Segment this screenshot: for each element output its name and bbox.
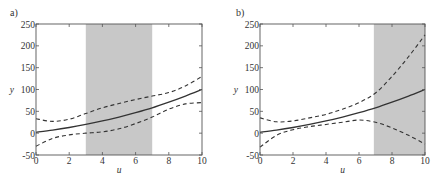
x-tick-label: 6 (357, 156, 362, 166)
y-tick-label: 250 (245, 20, 260, 30)
y-tick-label: 100 (245, 85, 260, 95)
y-axis-label: y (233, 85, 239, 95)
y-tick-label: 50 (250, 107, 260, 117)
x-tick-label: 4 (100, 156, 105, 166)
x-tick-label: 4 (324, 156, 329, 166)
y-tick-label: 250 (21, 20, 36, 30)
y-tick-label: 150 (245, 63, 260, 73)
y-axis-label: y (9, 85, 15, 95)
x-tick-label: 6 (133, 156, 138, 166)
shaded-region (374, 24, 425, 155)
x-tick-label: 2 (291, 156, 296, 166)
x-tick-label: 8 (166, 156, 171, 166)
y-tick-label: 150 (21, 63, 36, 73)
y-tick-label: 200 (21, 41, 36, 51)
x-tick-label: 8 (390, 156, 395, 166)
x-axis-label: u (340, 165, 345, 175)
x-tick-label: 2 (67, 156, 72, 166)
y-tick-label: 0 (254, 129, 259, 139)
panel-a: a)-500501001502002500246810uy (9, 7, 207, 175)
y-tick-label: 50 (26, 107, 36, 117)
figure: a)-500501001502002500246810uy b)-5005010… (0, 0, 442, 175)
panel-label: a) (10, 7, 18, 19)
panel-label: b) (236, 7, 244, 19)
x-tick-label: 0 (34, 156, 39, 166)
y-tick-label: 100 (21, 85, 36, 95)
x-tick-label: 10 (420, 156, 430, 166)
y-tick-label: 200 (245, 41, 260, 51)
x-axis-label: u (117, 165, 122, 175)
x-tick-label: 0 (258, 156, 263, 166)
shaded-region (86, 24, 152, 155)
x-tick-label: 10 (197, 156, 207, 166)
y-tick-label: 0 (30, 129, 35, 139)
panel-b: b)-500501001502002500246810uy (233, 7, 430, 175)
